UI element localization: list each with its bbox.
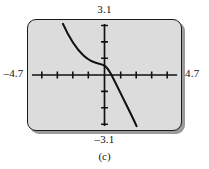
x-max-label: 4.7: [183, 67, 209, 79]
graph-plot: [28, 20, 181, 130]
y-max-label: 3.1: [0, 3, 209, 15]
calculator-viewport: [27, 19, 182, 131]
x-min-label: –4.7: [0, 67, 27, 79]
y-min-label: –3.1: [0, 133, 209, 145]
figure-caption: (c): [0, 150, 209, 162]
calculator-screen-figure: 3.1 –3.1 –4.7 4.7 (c): [0, 0, 209, 169]
